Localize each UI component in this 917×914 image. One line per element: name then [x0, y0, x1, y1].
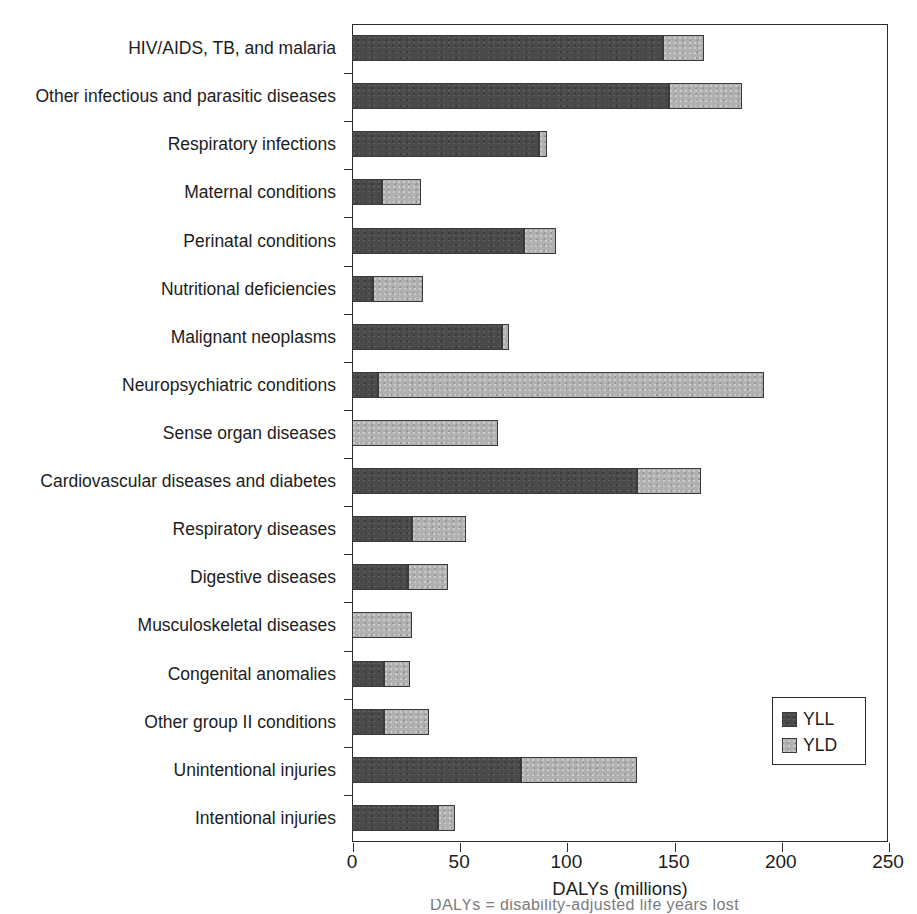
legend: YLL YLD [772, 697, 866, 765]
x-axis-tick-label: 200 [765, 851, 797, 873]
bar-segment-yll [352, 372, 378, 398]
bar-segment-yld [352, 420, 498, 446]
x-axis-tick-label: 50 [449, 851, 470, 873]
x-axis-tick-label: 150 [658, 851, 690, 873]
bar-segment-yld [663, 35, 704, 61]
bar-segment-yld [539, 131, 548, 157]
category-label: HIV/AIDS, TB, and malaria [128, 38, 336, 58]
legend-item-yll: YLL [782, 706, 865, 732]
category-label: Cardiovascular diseases and diabetes [40, 471, 336, 491]
category-label: Sense organ diseases [163, 423, 336, 443]
category-label: Maternal conditions [184, 182, 336, 202]
bar-segment-yll [352, 709, 384, 735]
x-axis-tick-label: 100 [551, 851, 583, 873]
bar-segment-yll [352, 35, 663, 61]
bar-segment-yll [352, 131, 539, 157]
category-label: Other group II conditions [144, 712, 336, 732]
category-label: Congenital anomalies [168, 664, 336, 684]
bar-segment-yld [438, 805, 455, 831]
bar-segment-yll [352, 468, 637, 494]
bar-segment-yll [352, 83, 669, 109]
category-label: Other infectious and parasitic diseases [35, 86, 336, 106]
bar-segment-yll [352, 564, 408, 590]
legend-label-yll: YLL [803, 709, 834, 730]
legend-swatch-yld-icon [782, 738, 797, 753]
bar-segment-yld [521, 757, 637, 783]
bar-segment-yll [352, 228, 524, 254]
bar-segment-yll [352, 805, 438, 831]
category-label: Respiratory diseases [173, 519, 336, 539]
legend-item-yld: YLD [782, 732, 865, 758]
category-axis-labels: HIV/AIDS, TB, and malariaOther infectiou… [0, 24, 344, 842]
bar-segment-yll [352, 324, 502, 350]
bar-segment-yld [502, 324, 508, 350]
bar-segment-yld [373, 276, 422, 302]
bar-segment-yld [352, 612, 412, 638]
bar-segment-yld [524, 228, 556, 254]
bar-segment-yld [384, 661, 410, 687]
caption-fragment: DALYs = disability-adjusted life years l… [430, 899, 739, 914]
legend-label-yld: YLD [803, 735, 837, 756]
bar-segment-yld [412, 516, 466, 542]
category-label: Musculoskeletal diseases [138, 615, 336, 635]
bar-segment-yld [378, 372, 764, 398]
bar-segment-yll [352, 179, 382, 205]
bar-segment-yll [352, 757, 521, 783]
category-label: Neuropsychiatric conditions [122, 375, 336, 395]
legend-swatch-yll-icon [782, 712, 797, 727]
caption-sliver: DALYs = disability-adjusted life years l… [0, 899, 917, 914]
bar-segment-yll [352, 276, 373, 302]
bar-segment-yll [352, 516, 412, 542]
dalys-stacked-bar-chart: HIV/AIDS, TB, and malariaOther infectiou… [0, 0, 917, 914]
bar-segment-yld [408, 564, 449, 590]
category-label: Unintentional injuries [174, 760, 336, 780]
x-axis-title: DALYs (millions) [352, 878, 888, 900]
category-label: Digestive diseases [190, 567, 336, 587]
category-label: Perinatal conditions [183, 231, 336, 251]
x-axis-tick-label: 0 [347, 851, 358, 873]
category-label: Intentional injuries [195, 808, 336, 828]
bar-segment-yld [382, 179, 421, 205]
category-label: Respiratory infections [168, 134, 336, 154]
bar-segment-yld [669, 83, 742, 109]
bar-segment-yll [352, 661, 384, 687]
x-axis-tick-label: 250 [872, 851, 904, 873]
category-label: Malignant neoplasms [171, 327, 336, 347]
bar-segment-yld [637, 468, 701, 494]
category-label: Nutritional deficiencies [161, 279, 336, 299]
bar-segment-yld [384, 709, 429, 735]
